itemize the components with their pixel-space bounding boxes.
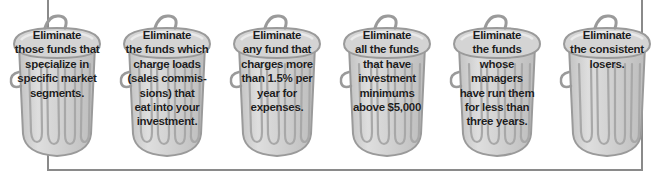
figure-canvas: Eliminate those funds that specialize in… [0,0,669,187]
trash-can-item: Eliminate all the funds that have invest… [335,6,439,164]
trash-can-item: Eliminate the consistent losers. [555,6,659,164]
bottom-bracket-rule [47,169,643,171]
trash-can-item: Eliminate the funds which charge loads (… [115,6,219,164]
trash-can-item: Eliminate any fund that charges more tha… [225,6,329,164]
trash-can-item: Eliminate the funds whose managers have … [445,6,549,164]
trash-can-icon [555,6,659,164]
trash-can-item: Eliminate those funds that specialize in… [5,6,109,164]
trash-can-icon [445,6,549,164]
trash-can-icon [225,6,329,164]
trash-can-icon [5,6,109,164]
trash-can-icon [335,6,439,164]
trash-can-icon [115,6,219,164]
